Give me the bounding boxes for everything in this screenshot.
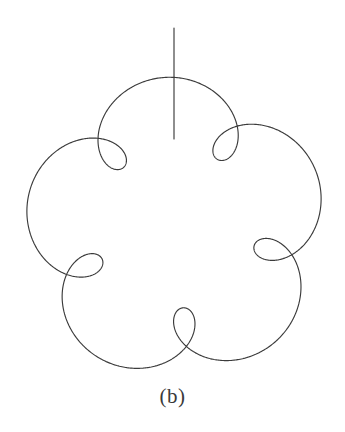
figure-container: (b): [0, 0, 345, 432]
figure-drawing-canvas: [0, 0, 345, 432]
figure-caption: (b): [0, 386, 345, 407]
canvas-background: [0, 0, 345, 432]
